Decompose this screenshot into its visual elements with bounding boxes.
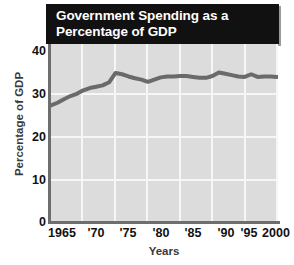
y-tick-40: 40 xyxy=(6,44,46,58)
chart-title: Government Spending as a Percentage of G… xyxy=(56,8,271,40)
x-tick-1990: '90 xyxy=(218,226,235,240)
y-tick-10: 10 xyxy=(6,173,46,187)
x-tick-1965: 1965 xyxy=(48,226,76,240)
series-line-government-spending xyxy=(50,44,278,222)
y-tick-0: 0 xyxy=(6,215,46,229)
y-tick-30: 30 xyxy=(6,87,46,101)
x-tick-2000: 2000 xyxy=(262,226,290,240)
x-tick-1975: '75 xyxy=(120,226,137,240)
x-axis-title: Years xyxy=(50,245,278,257)
chart-title-line2: Percentage of GDP xyxy=(56,24,177,39)
x-tick-1995: '95 xyxy=(241,226,258,240)
y-axis-line xyxy=(48,44,51,224)
chart-title-banner: Government Spending as a Percentage of G… xyxy=(46,4,279,44)
chart-title-line1: Government Spending as a xyxy=(56,8,228,23)
x-tick-1970: '70 xyxy=(88,226,105,240)
y-tick-20: 20 xyxy=(6,130,46,144)
x-tick-1980: '80 xyxy=(153,226,170,240)
chart-container: Government Spending as a Percentage of G… xyxy=(0,0,294,265)
y-axis-title: Percentage of GDP xyxy=(13,49,25,199)
x-tick-1985: '85 xyxy=(185,226,202,240)
plot-area xyxy=(50,44,278,222)
x-axis-line xyxy=(48,221,280,224)
